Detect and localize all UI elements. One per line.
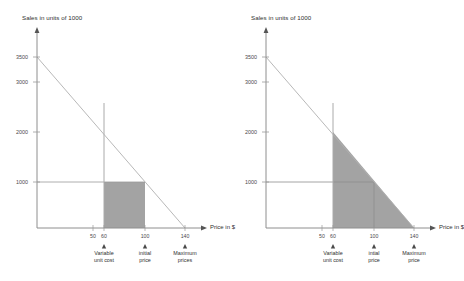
x-axis-arrow-icon xyxy=(430,226,436,231)
plot-area-right xyxy=(229,0,461,281)
y-tick-label-3500: 3500 xyxy=(235,54,257,60)
annotation-line-2: prices xyxy=(162,257,208,264)
chart-panel-right: Sales in units of 1000 3500 3000 xyxy=(229,0,461,281)
x-tick-label-140: 140 xyxy=(402,233,426,239)
annotation-line-1: Maximum xyxy=(162,250,208,257)
annotation-variable-unit-cost: Variable unit cost xyxy=(310,250,356,264)
y-tick-label-1000: 1000 xyxy=(6,179,28,185)
plot-area-left xyxy=(0,0,232,281)
annotation-arrow-initial-price-icon xyxy=(143,244,147,248)
x-tick-label-100: 100 xyxy=(133,233,157,239)
annotation-variable-unit-cost: Variable unit cost xyxy=(81,250,127,264)
y-tick-label-2000: 2000 xyxy=(235,129,257,135)
chart-panel-left: Sales in units of 1000 3500 3000 2000 10… xyxy=(0,0,232,281)
y-tick-label-2000: 2000 xyxy=(6,129,28,135)
x-tick-label-140: 140 xyxy=(173,233,197,239)
annotation-line-1: Maximum xyxy=(391,250,437,257)
y-tick-label-1000: 1000 xyxy=(235,179,257,185)
y-axis-arrow-icon xyxy=(264,27,269,33)
annotation-line-2: unit cost xyxy=(81,257,127,264)
annotation-arrow-variable-unit-cost-icon xyxy=(331,244,335,248)
annotation-arrow-maximum-prices-icon xyxy=(183,244,187,248)
x-tick-label-60: 60 xyxy=(92,233,116,239)
x-axis-arrow-icon xyxy=(201,226,207,231)
y-tick-label-3000: 3000 xyxy=(6,79,28,85)
annotation-arrow-maximum-price-icon xyxy=(412,244,416,248)
annotation-maximum-price: Maximum price xyxy=(391,250,437,264)
contribution-rectangle xyxy=(104,182,145,228)
x-axis-title-right: Price in $ xyxy=(439,224,464,230)
annotation-line-1: Variable xyxy=(310,250,356,257)
y-axis-arrow-icon xyxy=(35,27,40,33)
annotation-maximum-prices: Maximum prices xyxy=(162,250,208,264)
annotation-arrow-intial-price-icon xyxy=(372,244,376,248)
annotation-line-1: Variable xyxy=(81,250,127,257)
annotation-arrow-variable-unit-cost-icon xyxy=(102,244,106,248)
annotation-line-2: unit cost xyxy=(310,257,356,264)
x-tick-label-60: 60 xyxy=(321,233,345,239)
x-tick-label-100: 100 xyxy=(362,233,386,239)
annotation-line-2: price xyxy=(391,257,437,264)
y-tick-label-3500: 3500 xyxy=(6,54,28,60)
y-tick-label-3000: 3000 xyxy=(235,79,257,85)
